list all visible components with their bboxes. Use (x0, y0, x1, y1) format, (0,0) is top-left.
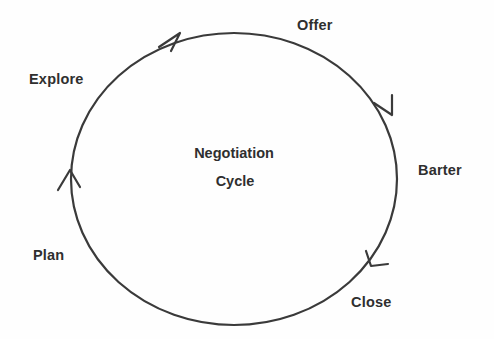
arrow-to-barter-icon (374, 95, 392, 115)
center-caption-line-1: Negotiation (130, 146, 338, 161)
stage-label-barter: Barter (418, 163, 462, 178)
stage-label-plan: Plan (33, 248, 64, 263)
stage-label-explore: Explore (29, 72, 84, 87)
stage-label-offer: Offer (297, 18, 333, 33)
center-caption: Negotiation Cycle (130, 146, 338, 188)
negotiation-cycle-diagram: Offer Barter Close Plan Explore Negotiat… (0, 0, 494, 339)
arrow-to-explore-icon (58, 170, 80, 190)
stage-label-close: Close (351, 295, 392, 310)
arrow-to-close-icon (366, 251, 388, 266)
center-caption-line-2: Cycle (130, 174, 338, 189)
